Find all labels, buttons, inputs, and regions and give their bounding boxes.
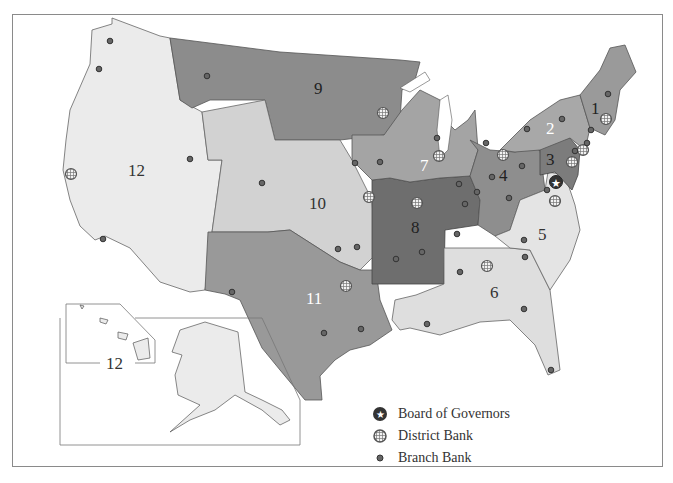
district-bank-st-louis (412, 198, 423, 209)
district-label-3: 3 (546, 150, 555, 169)
district-bank-atlanta (482, 261, 493, 272)
district-label-2: 2 (546, 119, 555, 138)
district-bank-richmond (550, 196, 561, 207)
district-label-8: 8 (411, 218, 420, 237)
district-label-4: 4 (499, 166, 508, 185)
legend-item-board-of-governors: ★ Board of Governors (370, 403, 510, 425)
district-label-7: 7 (420, 156, 429, 175)
district-label-6: 6 (490, 283, 499, 302)
district-bank-philadelphia (567, 157, 578, 168)
district-label-12: 12 (128, 161, 145, 180)
district-2-region (500, 95, 590, 152)
legend-label: Board of Governors (398, 406, 510, 422)
inset-district-label-12: 12 (106, 354, 123, 373)
district-bank-chicago (434, 151, 445, 162)
hawaii-shape (80, 305, 150, 360)
district-label-9: 9 (314, 79, 323, 98)
star-circle-icon: ★ (370, 406, 390, 422)
district-bank-minneapolis (378, 108, 389, 119)
district-label-1: 1 (591, 99, 600, 118)
svg-text:★: ★ (376, 409, 385, 420)
district-bank-cleveland (498, 150, 509, 161)
map-legend: ★ Board of Governors District Bank Branc… (370, 403, 510, 469)
federal-reserve-map: 12 9 10 11 8 7 6 5 4 3 2 1 12 ★ (0, 0, 673, 483)
district-label-5: 5 (538, 225, 547, 244)
legend-label: Branch Bank (398, 450, 471, 466)
legend-label: District Bank (398, 428, 473, 444)
district-bank-kansas-city (364, 192, 375, 203)
hatched-circle-icon (370, 428, 390, 444)
legend-item-branch-bank: Branch Bank (370, 447, 510, 469)
legend-item-district-bank: District Bank (370, 425, 510, 447)
district-bank-dallas (341, 281, 352, 292)
district-label-10: 10 (309, 194, 326, 213)
svg-text:★: ★ (551, 177, 561, 190)
district-bank-san-francisco (66, 169, 77, 180)
district-label-11: 11 (306, 289, 322, 308)
district-bank-boston (601, 114, 612, 125)
dot-icon (370, 450, 390, 466)
board-of-governors-marker: ★ (550, 176, 563, 190)
